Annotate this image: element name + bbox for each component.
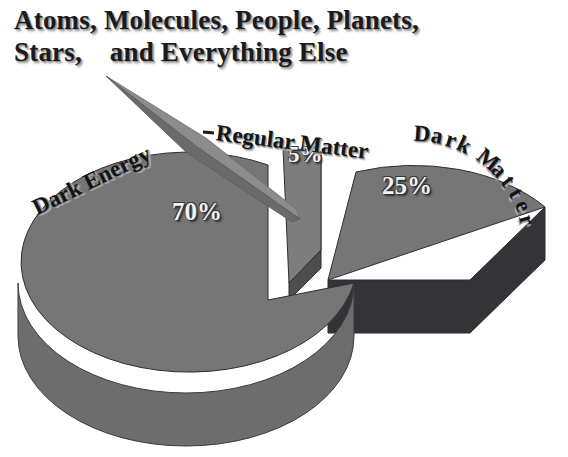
pie-chart-svg (0, 0, 568, 457)
value-label-dark-matter: 25% (382, 172, 432, 200)
chart-canvas (0, 0, 568, 457)
pie-chart-figure: Atoms, Molecules, People, Planets, Stars… (0, 0, 568, 457)
slice-label-dark-matter: Dark Matter (420, 140, 421, 141)
page-title: Atoms, Molecules, People, Planets, Stars… (14, 4, 562, 68)
title-line-1: Atoms, Molecules, People, Planets, (14, 4, 562, 36)
title-line-2: Stars, and Everything Else (14, 36, 562, 68)
slice-regular-matter[interactable] (283, 148, 321, 300)
value-label-dark-energy: 70% (172, 198, 222, 226)
